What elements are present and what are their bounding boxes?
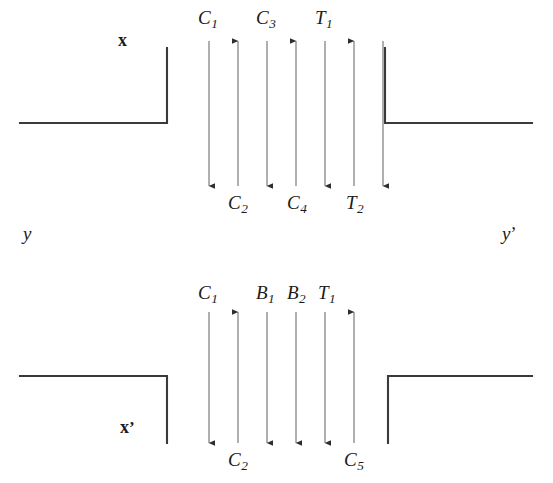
label-top-T2-sub: 2 bbox=[357, 201, 364, 216]
label-top-T1-base: T bbox=[315, 7, 326, 28]
label-bottom-C5-base: C bbox=[344, 449, 357, 470]
label-top-T2: T2 bbox=[346, 193, 364, 212]
label-top-C1-base: C bbox=[198, 7, 211, 28]
label-top-C3: C3 bbox=[256, 8, 276, 27]
flux-arrow-group-upper bbox=[209, 41, 383, 186]
axis-label-x-prime: x’ bbox=[120, 418, 135, 436]
label-top-C1-sub: 1 bbox=[211, 16, 218, 31]
label-bottom-T1-base: T bbox=[318, 282, 329, 303]
label-bottom-T1: T1 bbox=[318, 283, 336, 302]
label-bottom-B2-sub: 2 bbox=[299, 291, 306, 306]
label-bottom-C2-base: C bbox=[228, 449, 241, 470]
label-bottom-B2: B2 bbox=[287, 283, 306, 302]
label-top-C3-sub: 3 bbox=[269, 16, 276, 31]
label-top-C2: C2 bbox=[228, 193, 248, 212]
label-bottom-C5-sub: 5 bbox=[357, 458, 364, 473]
label-bottom-T1-sub: 1 bbox=[329, 291, 336, 306]
axis-label-y-prime: y’ bbox=[502, 224, 516, 243]
label-bottom-C1: C1 bbox=[198, 283, 218, 302]
wall-right-lower bbox=[388, 376, 532, 443]
label-top-C2-base: C bbox=[228, 192, 241, 213]
axis-label-y: y bbox=[23, 224, 31, 243]
label-bottom-B1: B1 bbox=[256, 283, 275, 302]
label-top-C4-sub: 4 bbox=[300, 201, 307, 216]
axis-label-x-prime-mark: ’ bbox=[129, 418, 135, 437]
label-top-T1: T1 bbox=[315, 8, 333, 27]
flux-arrow-group-lower bbox=[209, 312, 354, 443]
label-top-C4: C4 bbox=[287, 193, 307, 212]
label-top-C4-base: C bbox=[287, 192, 300, 213]
label-top-T2-base: T bbox=[346, 192, 357, 213]
label-bottom-B2-base: B bbox=[287, 282, 299, 303]
label-bottom-C5: C5 bbox=[344, 450, 364, 469]
label-top-T1-sub: 1 bbox=[326, 16, 333, 31]
figure-canvas: C1 C3 T1 C2 C4 T2 x y y’ C1 B1 B2 T1 C2 … bbox=[0, 0, 553, 483]
label-bottom-B1-sub: 1 bbox=[268, 291, 275, 306]
diagram-vector-layer bbox=[0, 0, 553, 483]
label-bottom-B1-base: B bbox=[256, 282, 268, 303]
label-top-C2-sub: 2 bbox=[241, 201, 248, 216]
wall-left-upper bbox=[20, 48, 167, 123]
axis-label-x: x bbox=[118, 31, 127, 49]
wall-right-upper bbox=[385, 48, 532, 123]
label-top-C1: C1 bbox=[198, 8, 218, 27]
axis-label-x-prime-base: x bbox=[120, 417, 129, 437]
label-bottom-C1-sub: 1 bbox=[211, 291, 218, 306]
label-bottom-C2-sub: 2 bbox=[241, 458, 248, 473]
label-bottom-C2: C2 bbox=[228, 450, 248, 469]
label-top-C3-base: C bbox=[256, 7, 269, 28]
label-bottom-C1-base: C bbox=[198, 282, 211, 303]
wall-left-lower bbox=[20, 376, 167, 443]
axis-label-y-prime-mark: ’ bbox=[510, 224, 516, 244]
